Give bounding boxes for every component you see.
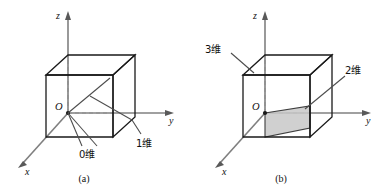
two-dim-leader — [305, 76, 345, 109]
panel-b-z-axis: z — [252, 10, 268, 113]
panel-a-y-axis: y — [68, 110, 174, 126]
three-dim-label: 3维 — [205, 43, 221, 55]
cube-top-face — [243, 55, 332, 75]
zero-dim-leader-diagonal — [68, 78, 110, 113]
zero-dim-leader-left — [68, 113, 82, 146]
zero-dim-leader-right — [68, 113, 97, 146]
z-axis-arrowhead — [262, 11, 268, 20]
panel-b-x-axis: x — [215, 113, 265, 177]
three-dim-leader — [231, 53, 254, 73]
panel-a-hidden-edges — [68, 55, 113, 113]
panel-a-x-axis: x — [18, 113, 68, 177]
one-dim-leader-upper — [90, 96, 132, 120]
panel-a-origin-label: O — [55, 101, 63, 112]
dimension-figure: z y x — [0, 0, 381, 192]
one-dim-label: 1维 — [136, 137, 152, 149]
panel-a-caption: (a) — [78, 173, 89, 185]
panel-b: z y x — [205, 10, 371, 185]
origin-point — [263, 111, 267, 115]
x-axis-label: x — [24, 166, 30, 177]
y-axis-label: y — [365, 115, 371, 126]
cube-top-face — [46, 55, 135, 75]
panel-b-origin-label: O — [252, 101, 260, 112]
figure-canvas: z y x — [0, 0, 381, 192]
y-axis-label: y — [168, 115, 174, 126]
panel-a-z-axis: z — [55, 10, 71, 113]
z-axis-label: z — [252, 10, 257, 21]
zero-dim-label: 0维 — [79, 148, 95, 160]
cube-right-face — [113, 55, 135, 137]
z-axis-label: z — [55, 10, 60, 21]
panel-a: z y x — [18, 10, 174, 185]
two-dim-label: 2维 — [345, 64, 361, 76]
panel-b-caption: (b) — [275, 173, 287, 185]
panel-b-hidden-edges — [265, 55, 310, 113]
one-dim-leader-lower — [132, 120, 141, 134]
two-dim-plane — [265, 106, 310, 137]
z-axis-arrowhead — [65, 11, 71, 20]
x-axis-label: x — [221, 166, 227, 177]
